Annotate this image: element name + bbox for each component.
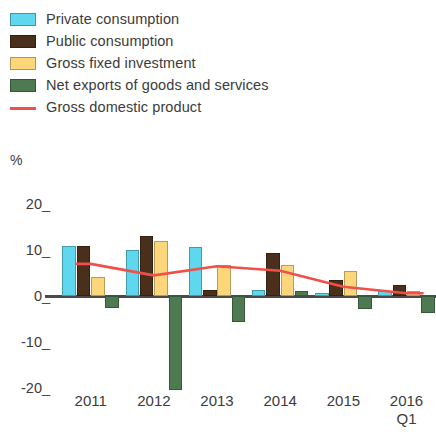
legend-label-public-consumption: Public consumption xyxy=(46,34,174,49)
x-axis-label-2011: 2011 xyxy=(75,392,107,409)
x-axis-label-2015: 2015 xyxy=(327,392,360,409)
legend-swatch-gross-fixed-investment xyxy=(10,57,36,70)
legend-item-public-consumption: Public consumption xyxy=(10,30,430,52)
chart-figure: Private consumption Public consumption G… xyxy=(0,0,436,436)
y-axis-unit-label: % xyxy=(10,152,22,168)
x-axis-sublabel-2016: Q1 xyxy=(390,410,423,427)
legend-swatch-private-consumption xyxy=(10,13,36,26)
legend-label-private-consumption: Private consumption xyxy=(46,12,179,27)
plot-area: 20_10_0_-10_-20_ 20112012201320142015201… xyxy=(0,180,436,436)
legend-item-private-consumption: Private consumption xyxy=(10,8,430,30)
legend-label-net-exports: Net exports of goods and services xyxy=(46,78,269,93)
legend-label-gross-fixed-investment: Gross fixed investment xyxy=(46,56,196,71)
axis-stub-left xyxy=(45,295,57,298)
legend-label-gross-domestic-product: Gross domestic product xyxy=(46,100,201,115)
x-axis-label-2016: 2016Q1 xyxy=(390,392,423,427)
legend-swatch-net-exports xyxy=(10,79,36,92)
legend-item-gross-domestic-product: Gross domestic product xyxy=(10,96,430,118)
legend-item-net-exports: Net exports of goods and services xyxy=(10,74,430,96)
x-axis-label-2012: 2012 xyxy=(137,392,170,409)
y-axis-tick-10: 10_ xyxy=(26,242,52,258)
x-axis-label-2013: 2013 xyxy=(200,392,233,409)
x-axis-labels: 201120122013201420152016Q1 xyxy=(57,392,436,436)
y-axis-tick-neg20: -20_ xyxy=(21,380,52,396)
legend-line-gross-domestic-product xyxy=(10,107,36,110)
legend-item-gross-fixed-investment: Gross fixed investment xyxy=(10,52,430,74)
chart-legend: Private consumption Public consumption G… xyxy=(10,8,430,118)
y-axis-tick-20: 20_ xyxy=(26,196,52,212)
x-axis-label-2014: 2014 xyxy=(264,392,297,409)
y-axis-tick-neg10: -10_ xyxy=(21,334,52,350)
legend-swatch-public-consumption xyxy=(10,35,36,48)
